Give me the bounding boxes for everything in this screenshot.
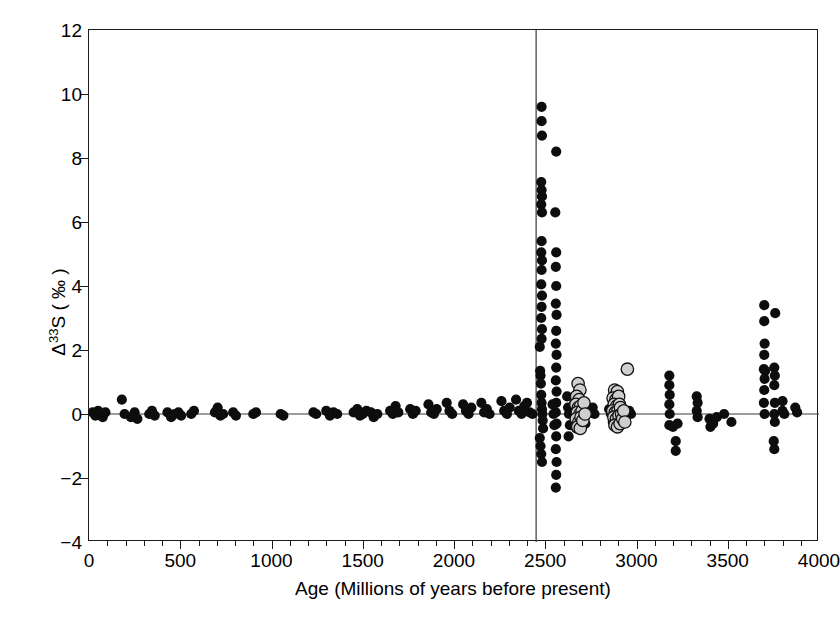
data-point — [536, 379, 546, 389]
x-axis-minor-tick — [326, 540, 327, 546]
x-axis-minor-tick — [564, 540, 565, 546]
x-axis-tick-label: 4000 — [798, 551, 840, 570]
x-axis-tick-label: 1000 — [250, 551, 292, 570]
x-axis-tick — [272, 540, 273, 549]
data-point — [218, 409, 228, 419]
x-axis-tick — [728, 540, 729, 549]
data-point — [550, 207, 560, 217]
y-axis-title-superscript: 33 — [46, 329, 61, 343]
data-point — [432, 404, 442, 414]
data-point — [278, 411, 288, 421]
data-point — [537, 131, 547, 141]
data-point — [759, 350, 769, 360]
y-axis-tick-label: −2 — [60, 469, 82, 488]
data-point — [484, 409, 494, 419]
x-axis-tick-label: 500 — [164, 551, 196, 570]
data-point — [522, 398, 532, 408]
y-axis-tick-label: 4 — [71, 277, 82, 296]
data-point — [551, 339, 561, 349]
x-axis-minor-tick — [381, 540, 382, 546]
data-point — [537, 102, 547, 112]
data-point — [466, 403, 476, 413]
data-point — [759, 316, 769, 326]
data-point — [551, 483, 561, 493]
data-point — [579, 408, 591, 420]
series-black-circles — [89, 102, 802, 493]
data-point — [496, 396, 506, 406]
data-point — [231, 411, 241, 421]
data-point — [447, 409, 457, 419]
y-axis-title-delta: Δ — [48, 343, 69, 356]
data-point — [665, 409, 675, 419]
data-point — [551, 147, 561, 157]
data-point — [770, 417, 780, 427]
data-point — [551, 444, 561, 454]
data-point — [372, 409, 382, 419]
plot-area: −4−2024681012050010001500200025003000350… — [88, 29, 818, 541]
x-axis-minor-tick — [582, 540, 583, 546]
data-point — [664, 371, 674, 381]
data-point — [760, 409, 770, 419]
x-axis-tick — [363, 540, 364, 549]
data-point — [551, 387, 561, 397]
x-axis-tick-label: 1500 — [342, 551, 384, 570]
data-point — [621, 363, 633, 375]
data-point — [779, 409, 789, 419]
data-point — [719, 409, 729, 419]
data-point — [537, 116, 547, 126]
data-point — [251, 407, 261, 417]
x-axis-title: Age (Millions of years before present) — [88, 578, 818, 600]
x-axis-minor-tick — [235, 540, 236, 546]
data-point — [551, 281, 561, 291]
data-point — [117, 395, 127, 405]
data-point — [619, 416, 631, 428]
data-point — [332, 409, 342, 419]
x-axis-tick-label: 3000 — [615, 551, 657, 570]
x-axis-minor-tick — [399, 540, 400, 546]
x-axis-minor-tick — [290, 540, 291, 546]
data-point — [538, 423, 548, 433]
data-point — [551, 350, 561, 360]
y-axis-tick-label: 2 — [71, 341, 82, 360]
data-point — [393, 407, 403, 417]
data-point — [759, 300, 769, 310]
data-point — [176, 411, 186, 421]
data-point — [189, 406, 199, 416]
x-axis-minor-tick — [199, 540, 200, 546]
y-axis-tick-label: −4 — [60, 533, 82, 552]
data-point — [777, 396, 787, 406]
x-axis-minor-tick — [253, 540, 254, 546]
x-axis-minor-tick — [217, 540, 218, 546]
data-point — [549, 420, 559, 430]
x-axis-minor-tick — [655, 540, 656, 546]
data-point — [537, 302, 547, 312]
data-point — [551, 363, 561, 373]
data-point — [760, 374, 770, 384]
data-point — [150, 411, 160, 421]
y-axis-tick-label: 12 — [61, 21, 82, 40]
x-axis-tick — [454, 540, 455, 549]
data-point — [759, 385, 769, 395]
y-axis-tick-label: 0 — [71, 405, 82, 424]
data-point — [536, 279, 546, 289]
data-point — [132, 414, 142, 424]
data-point — [548, 409, 558, 419]
data-point — [665, 390, 675, 400]
y-axis-tick-label: 6 — [71, 213, 82, 232]
data-point — [537, 457, 547, 467]
data-point — [536, 313, 546, 323]
x-axis-tick-label: 2000 — [433, 551, 475, 570]
y-axis-tick-label: 10 — [61, 85, 82, 104]
x-axis-minor-tick — [491, 540, 492, 546]
x-axis-minor-tick — [107, 540, 108, 546]
data-point — [311, 409, 321, 419]
data-point — [726, 417, 736, 427]
x-axis-minor-tick — [527, 540, 528, 546]
x-axis-tick-label: 2500 — [524, 551, 566, 570]
x-axis-minor-tick — [509, 540, 510, 546]
data-point — [671, 446, 681, 456]
data-point — [769, 444, 779, 454]
x-axis-minor-tick — [418, 540, 419, 546]
x-axis-minor-tick — [764, 540, 765, 546]
